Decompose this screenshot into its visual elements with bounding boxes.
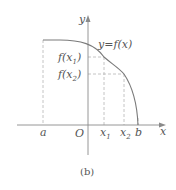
y-tick-fx2: f(x2) [57, 68, 81, 83]
x-tick-b: b [135, 126, 142, 139]
curve-label: y=f(x) [97, 38, 132, 51]
x-tick-x2: x2 [120, 126, 131, 141]
y-axis-arrow-icon [86, 15, 91, 22]
x-axis-label: x [160, 125, 167, 138]
x-tick-x1: x1 [100, 126, 111, 141]
y-tick-fx1: f(x1) [57, 51, 81, 66]
function-diagram: y x O y=f(x) f(x1) f(x2) a x1 x2 b (b) [0, 0, 176, 190]
origin-label: O [75, 127, 84, 140]
x-tick-a: a [40, 126, 47, 139]
figure-caption: (b) [80, 166, 94, 177]
y-axis-label: y [78, 13, 86, 26]
